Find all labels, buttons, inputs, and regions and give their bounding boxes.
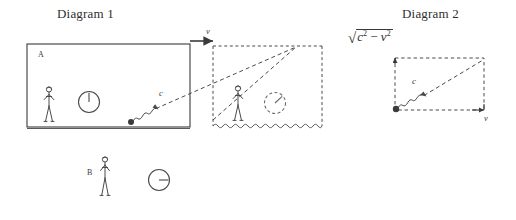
- observer-b-label: B: [87, 168, 92, 177]
- observer-a-moving-figure: [233, 86, 243, 121]
- diagram2-light-ray-dashed: [420, 60, 483, 96]
- formula-v-exponent: 2: [387, 29, 391, 38]
- velocity-label-top: v: [206, 26, 210, 36]
- radical-sign: √: [348, 30, 356, 46]
- observer-a-figure: [44, 87, 54, 122]
- formula-c-exponent: 2: [363, 29, 367, 38]
- sqrt-c2-minus-v2-formula: √c2 − v2: [348, 30, 393, 45]
- formula-minus: −: [370, 29, 377, 44]
- diagram-2-title: Diagram 2: [402, 6, 459, 22]
- observer-b-figure: [100, 157, 110, 196]
- light-speed-label-diagram1: c: [159, 88, 163, 98]
- photon-emission-point: [128, 119, 134, 125]
- photon-wave-segment: [133, 108, 156, 121]
- moving-frame-box: [213, 46, 322, 126]
- observer-a-label: A: [38, 50, 44, 59]
- velocity-label-diagram2: v: [484, 113, 488, 123]
- diagram2-velocity-arrow: [472, 104, 484, 110]
- ground-line-hatched: [213, 124, 322, 127]
- radicand: c2 − v2: [356, 29, 392, 43]
- clock-b: [149, 170, 170, 191]
- diagram-1-title: Diagram 1: [57, 6, 114, 22]
- diagram2-photon-wave: [398, 95, 422, 108]
- physics-diagram-artwork: [0, 0, 516, 220]
- clock-a: [79, 92, 100, 113]
- figure-canvas: Diagram 1 Diagram 2 A B v c c v √c2 − v2: [0, 0, 516, 220]
- clock-moving-dashed: [265, 93, 286, 114]
- light-speed-label-diagram2: c: [412, 76, 416, 86]
